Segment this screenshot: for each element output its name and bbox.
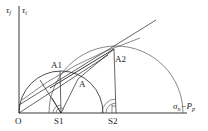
angle-arc-s1-1	[53, 105, 61, 113]
radius-lines	[40, 49, 116, 113]
a1-label: A1	[51, 60, 62, 70]
origin-label: O	[15, 116, 22, 126]
s2-label: S2	[108, 116, 118, 126]
angle-arc-s2-2	[106, 103, 116, 113]
envelope-line-upper	[19, 20, 156, 105]
line-a-a2	[78, 49, 114, 79]
sigma-axis-label: σn−Pp	[173, 101, 195, 112]
angle-marks	[53, 99, 116, 113]
mohr-circle-diagram: τf τt O S1 S2 A1 A A2 σn−Pp	[0, 0, 208, 131]
s1-label: S1	[54, 116, 64, 126]
tau-f-label: τf	[6, 5, 12, 16]
a2-label: A2	[115, 54, 126, 64]
envelope-tangent-line	[19, 55, 108, 113]
a-label: A	[79, 79, 86, 89]
envelope-lines	[19, 20, 156, 113]
tau-t-label: τt	[22, 5, 27, 16]
radius-s1-a1	[60, 71, 61, 113]
